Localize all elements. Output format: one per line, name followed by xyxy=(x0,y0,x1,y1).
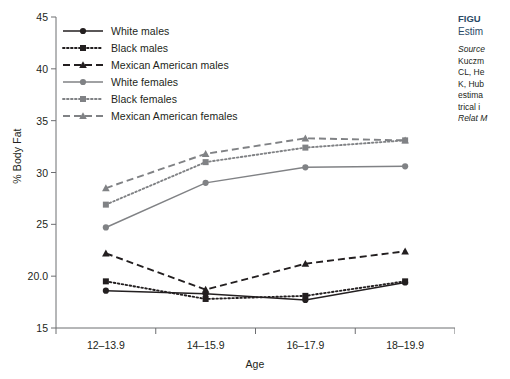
data-point-marker xyxy=(80,78,86,84)
figure-source-line: CL, He xyxy=(458,67,510,79)
legend-item-5: Mexican American females xyxy=(62,107,292,124)
figure-source-text: SourceKuczmCL, HeK, Hubestimatrical iRel… xyxy=(458,44,510,125)
legend-label: White females xyxy=(111,76,178,88)
legend-label: Mexican American females xyxy=(111,110,238,122)
legend-swatch-triangle-icon xyxy=(62,109,104,123)
chart-legend: White malesBlack malesMexican American m… xyxy=(62,22,292,124)
figure-source-line: estima xyxy=(458,90,510,102)
x-tick-label: 14–15.9 xyxy=(187,339,225,351)
figure-source-line: K, Hub xyxy=(458,79,510,91)
legend-item-3: White females xyxy=(62,73,292,90)
legend-item-0: White males xyxy=(62,22,292,39)
y-axis-title: % Body Fat xyxy=(11,116,23,196)
legend-swatch-triangle-icon xyxy=(62,58,104,72)
x-tick-label: 18–19.9 xyxy=(386,339,424,351)
chart-plot-region: 1520.02530354045 12–13.914–15.916–17.918… xyxy=(0,0,455,379)
x-tick-label: 12–13.9 xyxy=(87,339,125,351)
figure-source-line: trical i xyxy=(458,102,510,114)
legend-item-2: Mexican American males xyxy=(62,56,292,73)
legend-label: Black males xyxy=(111,42,168,54)
legend-item-1: Black males xyxy=(62,39,292,56)
legend-item-4: Black females xyxy=(62,90,292,107)
figure-source-line: Kuczm xyxy=(458,56,510,68)
figure-source-line: Relat M xyxy=(458,113,510,125)
data-point-marker xyxy=(80,27,86,33)
legend-swatch-circle-icon xyxy=(62,75,104,89)
figure-title-text: Estim xyxy=(458,25,510,39)
legend-label: White males xyxy=(111,25,169,37)
data-point-marker xyxy=(80,96,86,102)
legend-label: Black females xyxy=(111,93,177,105)
legend-label: Mexican American males xyxy=(111,59,229,71)
legend-swatch-square-icon xyxy=(62,41,104,55)
x-tick-label: 16–17.9 xyxy=(286,339,324,351)
figure-number-label: FIGU xyxy=(458,12,510,25)
data-point-marker xyxy=(80,45,86,51)
legend-swatch-square-icon xyxy=(62,92,104,106)
x-axis-title: Age xyxy=(55,358,455,370)
figure-source-line: Source xyxy=(458,44,510,56)
chart-page: 1520.02530354045 12–13.914–15.916–17.918… xyxy=(0,0,510,379)
legend-swatch-circle-icon xyxy=(62,24,104,38)
figure-caption: FIGU Estim SourceKuczmCL, HeK, Hubestima… xyxy=(458,12,510,125)
